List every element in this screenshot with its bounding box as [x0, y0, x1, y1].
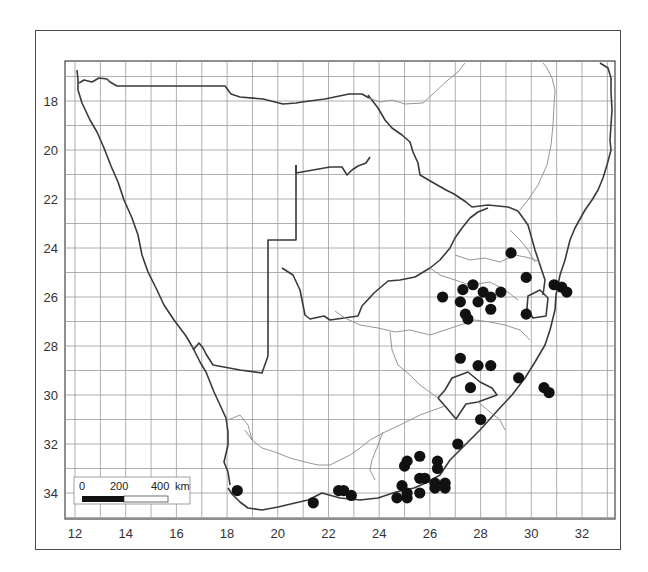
- occurrence-dot: [401, 492, 412, 503]
- y-tick-label: 22: [44, 192, 58, 207]
- y-tick-label: 24: [44, 241, 58, 256]
- occurrence-dot: [475, 414, 486, 425]
- occurrence-dot: [462, 313, 473, 324]
- occurrence-dot: [561, 287, 572, 298]
- scale-label-400: 400: [151, 480, 169, 492]
- occurrence-dot: [440, 483, 451, 494]
- occurrence-dot: [465, 382, 476, 393]
- occurrence-dot: [419, 473, 430, 484]
- occurrence-dot: [513, 372, 524, 383]
- x-tick-label: 28: [473, 526, 487, 541]
- distribution-map: 1214161820222426283032 18202224262830323…: [0, 0, 648, 572]
- occurrence-dot: [232, 485, 243, 496]
- occurrence-dot: [346, 490, 357, 501]
- scale-bar-empty: [124, 496, 168, 502]
- occurrence-dot: [429, 483, 440, 494]
- scale-label-200: 200: [110, 480, 128, 492]
- x-tick-label: 16: [169, 526, 183, 541]
- occurrence-dot: [495, 287, 506, 298]
- occurrence-dot: [399, 460, 410, 471]
- occurrence-dot: [432, 463, 443, 474]
- x-tick-label: 26: [423, 526, 437, 541]
- occurrence-dot: [414, 451, 425, 462]
- x-axis-ticks: 1214161820222426283032: [68, 526, 589, 541]
- occurrence-dot: [543, 387, 554, 398]
- occurrence-dot: [485, 291, 496, 302]
- plot-area: [65, 61, 615, 519]
- occurrence-dot: [472, 360, 483, 371]
- x-tick-label: 24: [372, 526, 386, 541]
- occurrence-dot: [485, 304, 496, 315]
- occurrence-dot: [308, 497, 319, 508]
- occurrence-dot: [457, 284, 468, 295]
- x-tick-label: 22: [321, 526, 335, 541]
- y-tick-label: 30: [44, 388, 58, 403]
- x-tick-label: 32: [575, 526, 589, 541]
- x-tick-label: 14: [118, 526, 132, 541]
- y-tick-label: 34: [44, 486, 58, 501]
- y-tick-label: 32: [44, 437, 58, 452]
- occurrence-dot: [391, 492, 402, 503]
- y-tick-label: 26: [44, 290, 58, 305]
- scale-bar: 0 200 400 km: [74, 477, 190, 504]
- scale-label-0: 0: [79, 480, 85, 492]
- scale-unit: km: [175, 480, 190, 492]
- x-tick-label: 30: [524, 526, 538, 541]
- occurrence-dot: [485, 360, 496, 371]
- x-tick-label: 18: [220, 526, 234, 541]
- y-tick-label: 28: [44, 339, 58, 354]
- x-tick-label: 20: [271, 526, 285, 541]
- occurrence-dot: [455, 353, 466, 364]
- occurrence-dot: [521, 272, 532, 283]
- occurrence-dot: [414, 487, 425, 498]
- y-axis-ticks: 182022242628303234: [44, 94, 58, 501]
- scale-bar-filled: [82, 496, 124, 502]
- y-tick-label: 20: [44, 143, 58, 158]
- occurrence-dot: [437, 291, 448, 302]
- occurrence-dot: [452, 438, 463, 449]
- occurrence-dot: [521, 309, 532, 320]
- occurrence-dot: [472, 296, 483, 307]
- occurrence-dot: [505, 247, 516, 258]
- occurrence-dot: [467, 279, 478, 290]
- x-tick-label: 12: [68, 526, 82, 541]
- y-tick-label: 18: [44, 94, 58, 109]
- occurrence-dot: [455, 296, 466, 307]
